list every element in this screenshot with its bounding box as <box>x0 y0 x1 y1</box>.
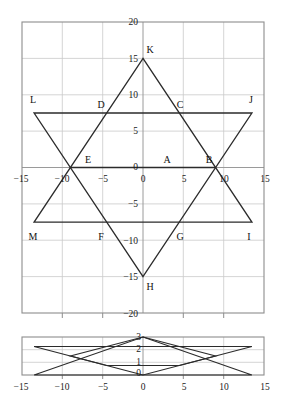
c-xtick-label-neg5: −5 <box>98 382 108 392</box>
vertex-label-H: H <box>146 281 153 292</box>
xtick-label-neg15: −15 <box>14 174 29 184</box>
c-xtick-label-neg10: −10 <box>55 382 70 392</box>
main-plot-axes <box>22 22 264 318</box>
vertex-label-G: G <box>176 231 183 242</box>
vertex-label-D: D <box>97 99 104 110</box>
geometry-figure-svg: −15 −10 −5 0 5 10 15 20 15 10 5 0 −5 −10… <box>0 0 286 402</box>
vertex-label-C: C <box>177 99 184 110</box>
vertex-label-J: J <box>249 94 253 105</box>
c-xtick-label-15: 15 <box>260 382 270 392</box>
xtick-label-neg5: −5 <box>98 174 108 184</box>
c-xtick-label-10: 10 <box>219 382 229 392</box>
c-ytick-label-3: 3 <box>136 332 141 342</box>
vertex-label-E: E <box>85 154 91 165</box>
c-xtick-label-neg15: −15 <box>14 382 29 392</box>
compressed-plot-axes <box>22 337 264 379</box>
c-ytick-label-0: 0 <box>136 368 141 378</box>
vertex-label-L: L <box>30 94 36 105</box>
xtick-label-5: 5 <box>182 174 187 184</box>
c-ytick-label-1: 1 <box>136 357 141 367</box>
ytick-label-neg15: −15 <box>123 272 138 282</box>
vertex-label-F: F <box>98 231 104 242</box>
c-ytick-label-2: 2 <box>136 344 141 354</box>
c-xtick-label-0: 0 <box>141 382 146 392</box>
ytick-label-20: 20 <box>129 17 139 27</box>
c-xtick-label-5: 5 <box>182 382 187 392</box>
ytick-label-0: 0 <box>133 162 138 172</box>
xtick-label-neg10: −10 <box>55 174 70 184</box>
vertex-label-M: M <box>29 231 38 242</box>
ytick-label-neg20: −20 <box>123 309 138 319</box>
figure-canvas: −15 −10 −5 0 5 10 15 20 15 10 5 0 −5 −10… <box>0 0 286 402</box>
ytick-label-neg10: −10 <box>123 236 138 246</box>
ytick-label-10: 10 <box>129 90 139 100</box>
xtick-label-0: 0 <box>141 174 146 184</box>
vertex-label-A: A <box>163 154 171 165</box>
vertex-label-K: K <box>146 44 154 55</box>
vertex-label-I: I <box>247 231 250 242</box>
ytick-label-15: 15 <box>129 54 139 64</box>
ytick-label-5: 5 <box>133 126 138 136</box>
vertex-label-B: B <box>206 154 213 165</box>
xtick-label-15: 15 <box>260 174 270 184</box>
xtick-label-10: 10 <box>219 174 229 184</box>
ytick-label-neg5: −5 <box>128 199 138 209</box>
